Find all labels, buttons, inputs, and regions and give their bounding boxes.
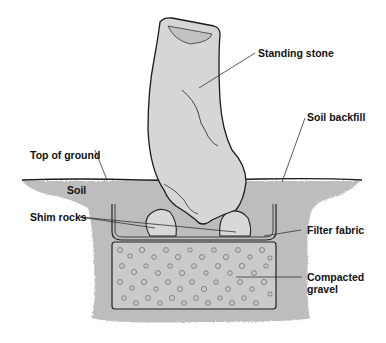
label-top-of-ground: Top of ground	[30, 149, 100, 161]
diagram-canvas: Standing stone Soil backfill Top of grou…	[0, 0, 386, 343]
label-compacted-gravel-line2: gravel	[307, 283, 338, 295]
label-soil-backfill: Soil backfill	[307, 111, 365, 123]
label-filter-fabric: Filter fabric	[307, 224, 364, 236]
label-standing-stone: Standing stone	[258, 47, 334, 59]
label-shim-rocks: Shim rocks	[30, 211, 87, 223]
label-soil: Soil	[67, 184, 86, 196]
label-compacted-gravel-line1: Compacted	[307, 271, 364, 283]
